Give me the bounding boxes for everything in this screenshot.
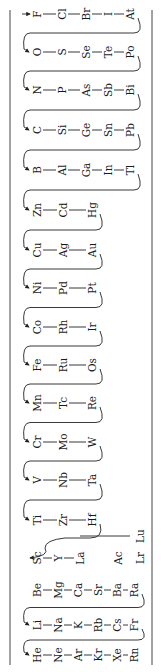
element-tc: Tc — [57, 397, 69, 409]
element-v: V — [31, 476, 43, 485]
element-fe: Fe — [31, 359, 43, 372]
element-w: W — [86, 436, 98, 447]
element-sb: Sb — [102, 83, 114, 97]
element-nb: Nb — [57, 472, 69, 488]
element-he: He — [31, 647, 43, 662]
element-ru: Ru — [57, 357, 69, 372]
element-se: Se — [80, 45, 92, 58]
element-ag: Ag — [57, 243, 69, 259]
element-sc: Sc — [31, 551, 43, 564]
element-mn: Mn — [31, 394, 43, 412]
element-p: P — [56, 86, 68, 93]
element-f: F — [31, 10, 43, 17]
element-li: Li — [31, 619, 43, 630]
element-ge: Ge — [80, 123, 92, 138]
element-i: I — [102, 12, 114, 16]
element-bi: Bi — [124, 84, 136, 96]
element-rn: Rn — [128, 647, 140, 662]
element-xe: Xe — [111, 648, 123, 662]
element-cl: Cl — [56, 8, 68, 20]
element-mg: Mg — [52, 581, 64, 599]
element-al: Al — [56, 164, 68, 177]
element-si: Si — [56, 124, 68, 135]
element-mo: Mo — [57, 433, 69, 450]
element-tl: Tl — [124, 164, 136, 175]
element-ar: Ar — [72, 648, 84, 663]
element-cu: Cu — [31, 242, 43, 257]
element-au: Au — [86, 243, 98, 259]
element-k: K — [72, 621, 84, 629]
element-labels: FClBrIAtOSSeTePoNPAsSbBiCSiGeSnPbBAlGaIn… — [31, 7, 146, 663]
element-ne: Ne — [52, 647, 64, 662]
element-fr: Fr — [128, 618, 140, 631]
element-te: Te — [102, 46, 114, 58]
element-na: Na — [52, 617, 64, 632]
element-y: Y — [52, 553, 64, 562]
element-hg: Hg — [86, 202, 98, 218]
element-la: La — [74, 551, 86, 564]
element-ta: Ta — [86, 474, 98, 486]
element-ac: Ac — [112, 551, 124, 566]
element-c: C — [31, 126, 43, 134]
element-in: In — [102, 164, 114, 175]
element-lr: Lr — [134, 551, 146, 564]
element-zn: Zn — [31, 203, 43, 217]
element-be: Be — [31, 583, 43, 597]
element-zr: Zr — [57, 513, 69, 526]
element-sn: Sn — [102, 123, 114, 137]
element-at: At — [124, 7, 136, 20]
element-b: B — [31, 166, 43, 174]
element-co: Co — [31, 320, 43, 334]
element-cd: Cd — [57, 202, 69, 217]
element-po: Po — [124, 46, 136, 59]
element-pb: Pb — [124, 123, 136, 137]
element-re: Re — [86, 396, 98, 410]
element-cr: Cr — [31, 434, 43, 448]
element-o: O — [31, 47, 43, 56]
element-kr: Kr — [92, 648, 104, 662]
element-ni: Ni — [31, 281, 43, 294]
element-pt: Pt — [86, 282, 98, 294]
element-sr: Sr — [92, 583, 104, 596]
element-as: As — [80, 84, 92, 98]
element-br: Br — [80, 7, 92, 21]
spiral-periodic-table: FClBrIAtOSSeTePoNPAsSbBiCSiGeSnPbBAlGaIn… — [0, 0, 161, 672]
element-hf: Hf — [86, 512, 98, 526]
element-pd: Pd — [57, 281, 69, 295]
element-rh: Rh — [57, 319, 69, 334]
element-cs: Cs — [111, 618, 123, 631]
element-rb: Rb — [92, 617, 104, 632]
element-ca: Ca — [72, 583, 84, 597]
element-os: Os — [86, 358, 98, 372]
element-ra: Ra — [128, 583, 140, 597]
element-lu: Lu — [134, 529, 146, 543]
element-s: S — [56, 48, 68, 55]
element-ti: Ti — [31, 514, 43, 525]
element-ga: Ga — [80, 163, 92, 178]
element-ba: Ba — [111, 583, 123, 597]
element-n: N — [31, 85, 43, 94]
element-ir: Ir — [86, 321, 98, 331]
